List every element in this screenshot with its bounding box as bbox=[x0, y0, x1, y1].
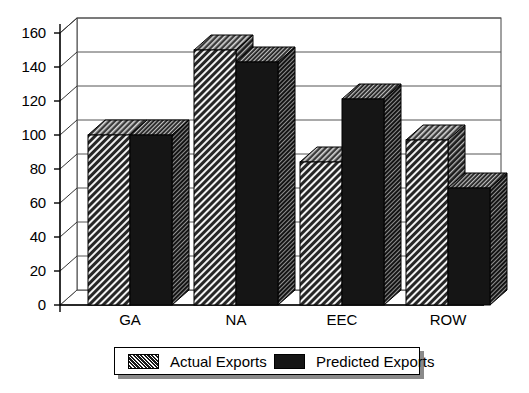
y-tick-label: 40 bbox=[30, 229, 46, 244]
bar-group-na bbox=[194, 35, 295, 305]
chart-canvas bbox=[0, 0, 529, 340]
y-axis-ticks bbox=[54, 33, 60, 305]
x-tick-label-ga: GA bbox=[90, 312, 170, 327]
y-tick-label: 140 bbox=[22, 59, 46, 74]
bar-row-predicted-exports bbox=[448, 173, 507, 305]
legend-label-predicted-exports: Predicted Exports bbox=[316, 354, 434, 369]
legend: Actual Exports Predicted Exports bbox=[114, 347, 420, 375]
legend-swatch-predicted-exports bbox=[274, 354, 305, 369]
legend-entry-predicted-exports: Predicted Exports bbox=[274, 348, 434, 374]
x-tick-label-eec: EEC bbox=[302, 312, 382, 327]
bar-group-ga bbox=[88, 120, 189, 305]
legend-label-actual-exports: Actual Exports bbox=[170, 354, 267, 369]
y-tick-label: 100 bbox=[22, 127, 46, 142]
y-tick-label: 80 bbox=[30, 161, 46, 176]
plot-area: 160 140 120 100 80 60 40 20 0 GA NA EEC … bbox=[0, 0, 529, 340]
y-tick-label: 20 bbox=[30, 263, 46, 278]
bar-eec-predicted-exports bbox=[342, 84, 401, 305]
bar-chart: 160 140 120 100 80 60 40 20 0 GA NA EEC … bbox=[0, 0, 529, 393]
y-tick-label: 0 bbox=[38, 297, 46, 312]
x-tick-label-row: ROW bbox=[408, 312, 488, 327]
x-tick-label-na: NA bbox=[196, 312, 276, 327]
bar-na-predicted-exports bbox=[236, 47, 295, 305]
y-tick-label: 160 bbox=[22, 25, 46, 40]
y-tick-label: 120 bbox=[22, 93, 46, 108]
y-axis-tick-labels: 160 140 120 100 80 60 40 20 0 bbox=[0, 0, 46, 340]
y-tick-label: 60 bbox=[30, 195, 46, 210]
legend-swatch-actual-exports bbox=[128, 354, 159, 369]
bar-ga-predicted-exports bbox=[130, 120, 189, 305]
legend-entry-actual-exports: Actual Exports bbox=[128, 348, 267, 374]
